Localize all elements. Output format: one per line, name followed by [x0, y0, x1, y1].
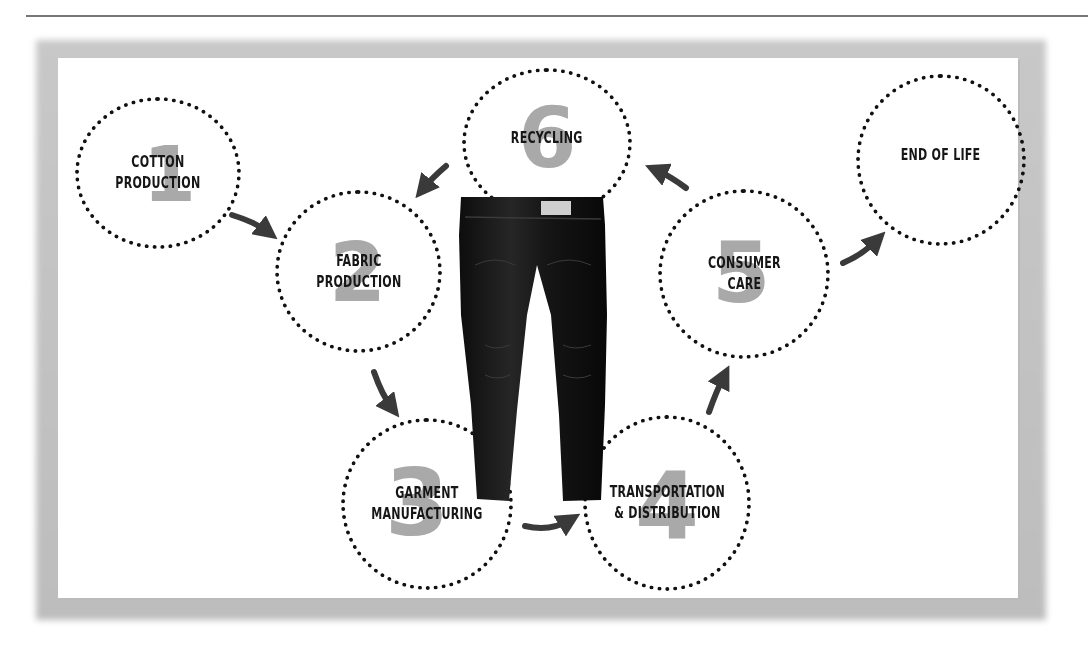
arrow-2-to-3 — [374, 372, 392, 408]
stage-cotton-production: 1 COTTON PRODUCTION — [75, 97, 241, 249]
stage-label: RECYCLING — [511, 128, 583, 149]
stage-consumer-care: 5 CONSUMER CARE — [658, 189, 830, 359]
stage-label: TRANSPORTATION & DISTRIBUTION — [609, 482, 724, 524]
arrow-5-to-6 — [656, 170, 686, 188]
arrow-3-to-4 — [525, 520, 570, 528]
jeans-image — [455, 195, 615, 505]
arrow-5-to-end — [843, 240, 877, 263]
stage-label: END OF LIFE — [901, 145, 981, 166]
arrow-6-to-2 — [423, 166, 446, 189]
stage-label: COTTON PRODUCTION — [115, 152, 200, 194]
stage-label: FABRIC PRODUCTION — [316, 251, 401, 293]
stage-label: CONSUMER CARE — [708, 253, 781, 295]
jeans-label-patch — [541, 201, 571, 215]
stage-end-of-life: END OF LIFE — [856, 74, 1026, 246]
arrow-4-to-5 — [709, 376, 724, 412]
arrow-1-to-2 — [232, 215, 268, 232]
stage-fabric-production: 2 FABRIC PRODUCTION — [275, 190, 442, 353]
